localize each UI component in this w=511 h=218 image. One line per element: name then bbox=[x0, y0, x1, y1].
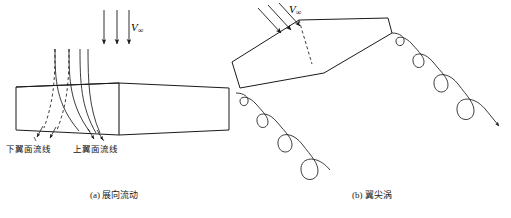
caption-panel-a: (a) 展向流动 bbox=[90, 188, 138, 201]
figure-canvas bbox=[0, 0, 511, 218]
wing-planform-b bbox=[232, 18, 392, 88]
wingtip-vortex-right bbox=[392, 33, 499, 126]
aerodynamics-figure: V∞ V∞ 下翼面流线 上翼面流线 (a) 展向流动 (b) 翼尖涡 bbox=[0, 0, 511, 218]
freestream-label-a: V∞ bbox=[131, 21, 143, 35]
wing-planform-a bbox=[16, 83, 229, 135]
lower-surface-streamlines bbox=[44, 49, 69, 130]
caption-panel-b: (b) 翼尖涡 bbox=[352, 188, 392, 201]
upper-surface-streamline-label: 上翼面流线 bbox=[73, 142, 118, 154]
lower-surface-streamline-label: 下翼面流线 bbox=[6, 142, 51, 154]
freestream-arrows-a bbox=[104, 10, 129, 44]
freestream-label-b: V∞ bbox=[289, 3, 301, 17]
upper-surface-streamlines bbox=[55, 49, 100, 133]
wingtip-vortex-left bbox=[236, 93, 330, 180]
